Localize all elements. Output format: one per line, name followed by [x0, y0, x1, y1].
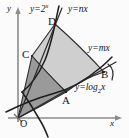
label-exponential-exponent: x — [45, 2, 48, 9]
label-exponential-curve: y=2x — [30, 5, 48, 15]
point-label-A: A — [62, 95, 70, 106]
label-log-curve: y=log2x — [75, 83, 105, 93]
label-log-text: y=log — [75, 82, 98, 92]
label-line-nx: y=nx — [68, 5, 88, 15]
y-axis-label: y — [7, 4, 11, 13]
label-exponential-text: y=2 — [30, 4, 45, 14]
x-axis-label: x — [110, 119, 114, 128]
point-label-D: D — [48, 16, 56, 27]
math-figure: y x O A B C D y=2x y=nx y=mx y=log2x — [0, 0, 129, 138]
point-label-B: B — [101, 69, 108, 80]
label-log-arg: x — [101, 82, 105, 92]
point-marker-A — [65, 91, 67, 93]
point-label-C: C — [22, 49, 29, 60]
origin-label: O — [20, 119, 27, 129]
label-line-mx: y=mx — [88, 44, 110, 54]
point-marker-C — [31, 55, 33, 57]
